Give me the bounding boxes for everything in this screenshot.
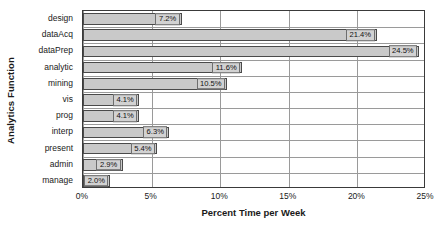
- bar-value-label: 4.1%: [113, 110, 137, 122]
- y-tick-label: analytic: [20, 59, 78, 75]
- bar-value-label: 2.9%: [96, 159, 120, 171]
- y-tick-label: mining: [20, 75, 78, 91]
- x-tick-label: 10%: [211, 191, 228, 201]
- x-tick-label: 20%: [348, 191, 365, 201]
- bar-row: 10.5%: [83, 78, 227, 90]
- y-tick-label: dataAcq: [20, 26, 78, 42]
- bar-row: 2.0%: [83, 175, 110, 187]
- bar-value-label: 21.4%: [346, 29, 375, 41]
- bar-value-label: 10.5%: [197, 78, 226, 90]
- y-tick-label: dataPrep: [20, 42, 78, 58]
- bar-row: 4.1%: [83, 110, 139, 122]
- bar-row: 21.4%: [83, 29, 377, 41]
- bar-value-label: 11.6%: [212, 62, 240, 74]
- y-tick-label: vis: [20, 91, 78, 107]
- bars-layer: 7.2%21.4%24.5%11.6%10.5%4.1%4.1%6.3%5.4%…: [83, 11, 424, 187]
- bar-value-label: 24.5%: [389, 46, 418, 58]
- y-tick-label: admin: [20, 156, 78, 172]
- bar-row: 5.4%: [83, 143, 157, 155]
- bar-row: 4.1%: [83, 94, 139, 106]
- x-axis-title: Percent Time per Week: [82, 207, 425, 218]
- y-axis-tick-labels: designdataAcqdataPrepanalyticminingvispr…: [20, 10, 78, 188]
- bar-value-label: 2.0%: [84, 175, 108, 187]
- bar: [83, 29, 377, 41]
- bar: [83, 46, 419, 58]
- bar-chart: Analytics Function designdataAcqdataPrep…: [0, 0, 441, 240]
- y-axis-title: Analytics Function: [0, 0, 20, 200]
- bar-value-label: 6.3%: [143, 127, 167, 139]
- bar-row: 6.3%: [83, 127, 169, 139]
- bar-row: 2.9%: [83, 159, 123, 171]
- y-tick-label: present: [20, 140, 78, 156]
- y-axis-title-text: Analytics Function: [5, 57, 16, 144]
- bar-row: 24.5%: [83, 46, 419, 58]
- bar-value-label: 4.1%: [113, 94, 137, 106]
- plot-area: 7.2%21.4%24.5%11.6%10.5%4.1%4.1%6.3%5.4%…: [82, 10, 425, 188]
- y-tick-label: interp: [20, 123, 78, 139]
- bar-value-label: 7.2%: [155, 13, 179, 25]
- bar-value-label: 5.4%: [131, 143, 155, 155]
- x-tick-label: 25%: [416, 191, 433, 201]
- bar-row: 7.2%: [83, 13, 182, 25]
- x-tick-label: 5%: [144, 191, 156, 201]
- x-tick-label: 15%: [279, 191, 296, 201]
- x-axis-tick-labels: 0%5%10%15%20%25%: [82, 191, 425, 205]
- y-tick-label: design: [20, 10, 78, 26]
- y-tick-label: prog: [20, 107, 78, 123]
- bar-row: 11.6%: [83, 62, 242, 74]
- x-tick-label: 0%: [76, 191, 88, 201]
- y-tick-label: manage: [20, 172, 78, 188]
